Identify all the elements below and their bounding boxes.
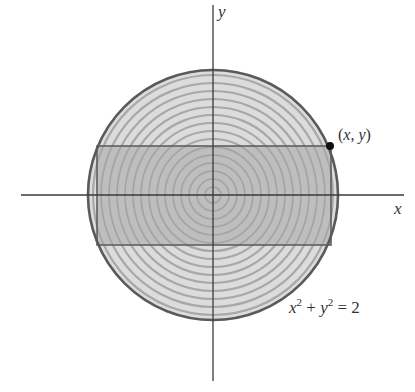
x-axis-label: x [393, 199, 402, 218]
point-label: (x, y) [338, 126, 371, 144]
point-marker [326, 142, 334, 150]
y-axis-label: y [216, 2, 226, 21]
circle-inscribed-rectangle-diagram: y x (x, y) x2 + y2 = 2 [0, 0, 415, 392]
circle-equation-label: x2 + y2 = 2 [288, 296, 360, 317]
